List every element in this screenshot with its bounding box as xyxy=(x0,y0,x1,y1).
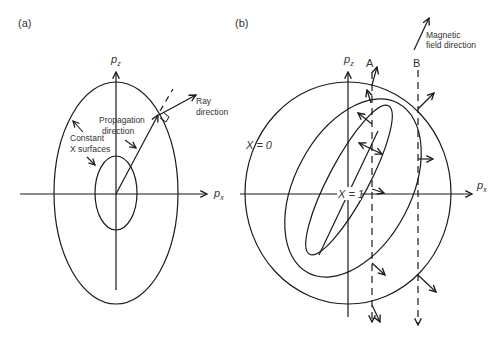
ray-arrow-a4-double xyxy=(359,143,382,154)
line-a-label: A xyxy=(366,57,374,69)
figure: (a) px pz Propagationdirection Raydirect… xyxy=(0,0,500,342)
magnetic-field-label: Magneticfield direction xyxy=(426,30,476,50)
px-label-b: px xyxy=(476,179,487,193)
ray-arrow-a7 xyxy=(372,305,380,322)
px-label-a: px xyxy=(213,187,224,201)
propagation-direction-label: Propagationdirection xyxy=(99,115,145,136)
panel-a-label: (a) xyxy=(18,17,31,29)
line-b-label: B xyxy=(413,57,420,69)
constant-pointer-outer xyxy=(73,121,83,132)
panel-b-label: (b) xyxy=(235,17,248,29)
ray-arrow-b3 xyxy=(418,275,436,292)
constant-pointer-inner xyxy=(87,157,95,165)
panel-a: (a) px pz Propagationdirection Raydirect… xyxy=(18,17,228,304)
tangent-dashed-line xyxy=(160,89,173,111)
ray-direction-vector xyxy=(159,95,196,115)
x0-label: X = 0 xyxy=(245,139,273,151)
panel-b: (b) px pz X = 0 X = 1 A B Magneticfield … xyxy=(235,17,487,325)
pz-label-a: pz xyxy=(110,53,121,67)
ray-arrow-a1 xyxy=(372,67,377,85)
ray-direction-label: Raydirection xyxy=(196,96,228,117)
ray-arrow-a5 xyxy=(372,189,384,193)
ray-arrow-a6 xyxy=(372,263,385,275)
propagation-pointer-arrow xyxy=(125,140,136,148)
pz-label-b: pz xyxy=(343,53,354,67)
constant-x-surfaces-label: ConstantX surfaces xyxy=(70,133,110,154)
ray-arrow-b1 xyxy=(418,93,434,109)
x1-label: X = 1 xyxy=(337,188,364,200)
